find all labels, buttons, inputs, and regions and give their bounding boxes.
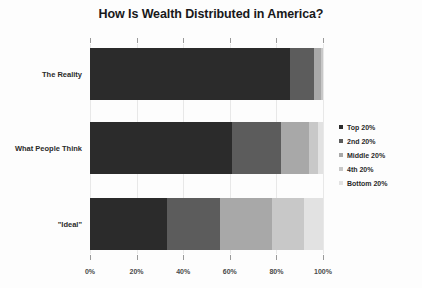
bar-row[interactable]: The Reality: [90, 48, 323, 100]
x-axis-tick-label: 80%: [269, 268, 283, 275]
bar-segment[interactable]: [167, 198, 221, 250]
legend-item[interactable]: Bottom 20%: [339, 176, 421, 190]
bar-segment[interactable]: [220, 198, 271, 250]
legend-label: Middle 20%: [347, 152, 385, 159]
x-axis-tick-label: 60%: [223, 268, 237, 275]
x-axis-tick-label: 0%: [85, 268, 95, 275]
legend-item[interactable]: 4th 20%: [339, 162, 421, 176]
legend-item[interactable]: 2nd 20%: [339, 134, 421, 148]
legend-label: 4th 20%: [347, 166, 373, 173]
category-label: The Reality: [42, 70, 82, 79]
x-axis-tick: [137, 255, 138, 260]
legend-swatch-icon: [339, 181, 343, 185]
legend-swatch-icon: [339, 167, 343, 171]
x-axis-tick: [183, 255, 184, 260]
bar-row[interactable]: What People Think: [90, 122, 323, 174]
bar-segment[interactable]: [304, 198, 323, 250]
bar-segment[interactable]: [318, 122, 323, 174]
x-axis-tick: [90, 255, 91, 260]
x-axis-tick: [276, 38, 277, 43]
bar-segment[interactable]: [232, 122, 281, 174]
bar-segment[interactable]: [90, 122, 232, 174]
x-axis-tick: [323, 38, 324, 43]
legend-label: Top 20%: [347, 124, 375, 131]
chart-title: How Is Wealth Distributed in America?: [0, 7, 422, 21]
x-axis-tick-label: 100%: [314, 268, 332, 275]
legend-item[interactable]: Middle 20%: [339, 148, 421, 162]
x-axis-tick: [137, 38, 138, 43]
bar-segment[interactable]: [314, 48, 321, 100]
plot-area: 0%20%40%60%80%100%The RealityWhat People…: [90, 44, 323, 254]
bar-row[interactable]: "Ideal": [90, 198, 323, 250]
bar-segment[interactable]: [281, 122, 309, 174]
x-axis-tick-label: 20%: [130, 268, 144, 275]
legend-swatch-icon: [339, 153, 343, 157]
legend-swatch-icon: [339, 125, 343, 129]
legend-swatch-icon: [339, 139, 343, 143]
wealth-distribution-chart: How Is Wealth Distributed in America? 0%…: [0, 0, 422, 288]
chart-legend: Top 20%2nd 20%Middle 20%4th 20%Bottom 20…: [339, 120, 421, 190]
bar-segment[interactable]: [321, 48, 323, 100]
bar-segment[interactable]: [90, 198, 167, 250]
bar-segment[interactable]: [309, 122, 318, 174]
x-axis-tick: [230, 38, 231, 43]
x-axis-tick: [230, 255, 231, 260]
x-axis-tick: [323, 255, 324, 260]
bar-segment[interactable]: [272, 198, 305, 250]
legend-label: Bottom 20%: [347, 180, 387, 187]
legend-item[interactable]: Top 20%: [339, 120, 421, 134]
bar-segment[interactable]: [90, 48, 290, 100]
x-axis-tick-label: 40%: [176, 268, 190, 275]
legend-label: 2nd 20%: [347, 138, 375, 145]
category-label: What People Think: [15, 144, 82, 153]
x-axis-tick: [183, 38, 184, 43]
x-axis-tick: [276, 255, 277, 260]
category-label: "Ideal": [58, 220, 82, 229]
bar-segment[interactable]: [290, 48, 313, 100]
x-axis-tick: [90, 38, 91, 43]
gridline: [323, 44, 324, 254]
